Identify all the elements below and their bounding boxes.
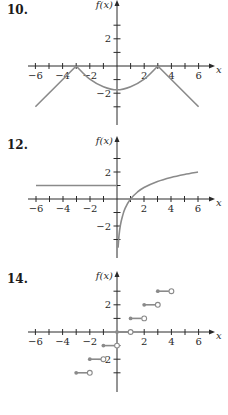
x-tick-label: 2: [141, 336, 147, 347]
open-endpoint: [142, 316, 147, 321]
x-tick-label: 6: [195, 203, 201, 214]
y-axis-arrow: [115, 136, 120, 142]
closed-endpoint: [88, 357, 92, 361]
open-endpoint: [101, 357, 106, 362]
closed-endpoint: [129, 317, 133, 321]
open-endpoint: [128, 330, 133, 335]
y-tick-label: −2: [96, 88, 111, 99]
x-tick-label: −6: [29, 203, 44, 214]
x-axis-arrow: [209, 64, 215, 69]
x-axis-arrow: [209, 197, 215, 202]
x-axis-arrow: [209, 330, 215, 335]
x-tick-label: 6: [195, 336, 201, 347]
closed-endpoint: [115, 330, 119, 334]
graph-14-svg: −6−4−22462−2f(x)x: [0, 270, 228, 415]
y-axis-label: f(x): [95, 135, 113, 146]
y-axis-label: f(x): [95, 0, 113, 10]
y-tick-label: 2: [105, 33, 111, 44]
y-tick-label: 2: [105, 167, 111, 178]
right-line: [158, 66, 199, 107]
y-axis-arrow: [115, 0, 120, 6]
x-tick-label: −6: [28, 70, 43, 81]
graph-panel-14: 14. −6−4−22462−2f(x)x: [0, 270, 228, 415]
x-tick-label: 2: [141, 203, 147, 214]
x-tick-label: −4: [55, 336, 70, 347]
x-axis-label: x: [216, 330, 222, 341]
y-axis-arrow: [115, 271, 120, 277]
x-tick-label: −2: [82, 336, 97, 347]
closed-endpoint: [74, 371, 78, 375]
open-endpoint: [155, 302, 160, 307]
x-tick-label: −2: [83, 203, 98, 214]
closed-endpoint: [156, 289, 160, 293]
open-endpoint: [87, 370, 92, 375]
closed-endpoint: [102, 344, 106, 348]
graph-12-svg: −6−4−22462−2f(x)x: [0, 135, 228, 270]
open-endpoint: [115, 343, 120, 348]
x-tick-label: −4: [56, 203, 71, 214]
open-endpoint: [169, 289, 174, 294]
closed-endpoint: [142, 303, 146, 307]
x-tick-label: 6: [195, 70, 201, 81]
graph-panel-12: 12. −6−4−22462−2f(x)x: [0, 135, 228, 270]
y-tick-label: −2: [96, 221, 111, 232]
graph-panel-10: 10. −6−4−22462−2f(x)x: [0, 0, 228, 135]
y-tick-label: 2: [105, 299, 111, 310]
y-axis-label: f(x): [95, 270, 113, 281]
graph-10-svg: −6−4−22462−2f(x)x: [0, 0, 228, 135]
x-tick-label: 4: [168, 203, 174, 214]
log-curve: [118, 172, 198, 248]
x-axis-label: x: [216, 197, 222, 208]
x-tick-label: 4: [168, 336, 174, 347]
x-axis-label: x: [216, 64, 222, 75]
x-tick-label: −6: [28, 336, 43, 347]
